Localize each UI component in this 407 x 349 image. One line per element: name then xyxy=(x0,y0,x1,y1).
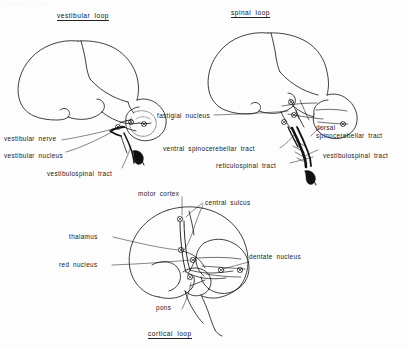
label-vestibulospinal-tract: vestibulospinal tract xyxy=(47,170,112,178)
label-vestibular-nucleus: vestibular nucleus xyxy=(4,152,63,160)
label-central-sulcus: central sulcus xyxy=(205,199,251,207)
label-fastigial-nucleus: fastigial nucleus xyxy=(157,112,210,120)
label-ventral-spinocerebellar-tract: ventral spinocerebellar tract xyxy=(163,145,255,153)
label-dorsal-spinocerebellar-tract-line2: spinocerebellar tract xyxy=(316,132,383,140)
label-pons: pons xyxy=(156,304,171,312)
title-cortical-loop: cortical loop xyxy=(148,330,192,339)
diagram-canvas: - -- -- -- -- xyxy=(0,0,407,349)
label-thalamus: thalamus xyxy=(69,233,98,241)
label-red-nucleus: red nucleus xyxy=(59,261,98,269)
label-vestibulospinal-tract-spinal: vestibulospinal tract xyxy=(323,152,388,160)
synapse-marker-group xyxy=(115,119,146,129)
label-dentate-nucleus: dentate nucleus xyxy=(249,253,301,261)
label-dorsal-spinocerebellar-tract-line1: dorsal xyxy=(316,124,336,132)
title-spinal-loop: spinal loop xyxy=(231,9,270,18)
cortical-loop-brain xyxy=(112,197,249,336)
vestibular-loop-brain xyxy=(18,41,166,168)
label-reticulospinal-tract: reticulospinal tract xyxy=(216,162,276,170)
label-motor-cortex: motor cortex xyxy=(138,190,179,198)
label-vestibular-nerve: vestibular nerve xyxy=(4,135,56,143)
title-vestibular-loop: vestibular loop xyxy=(57,12,109,21)
